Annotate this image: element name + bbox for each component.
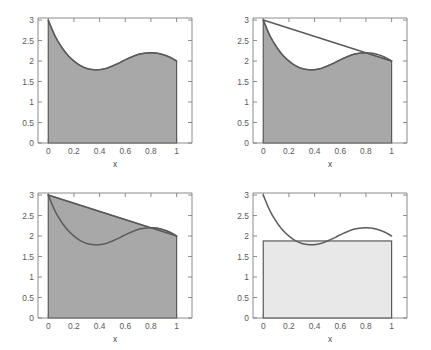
y-tick-label: 2 — [29, 231, 34, 241]
plot-svg-bottom-right: 00.20.40.60.8100.511.522.53x — [215, 175, 430, 350]
x-tick-label: 0.6 — [119, 146, 131, 156]
plot-svg-top-right: 00.20.40.60.8100.511.522.53x — [215, 0, 430, 175]
y-tick-label: 1 — [29, 272, 34, 282]
y-tick-label: 0 — [29, 138, 34, 148]
y-tick-label: 3 — [29, 190, 34, 200]
x-tick-label: 1 — [174, 321, 179, 331]
x-tick-label: 0.2 — [283, 146, 295, 156]
y-tick-label: 0 — [244, 138, 249, 148]
plot-svg-bottom-left: 00.20.40.60.8100.511.522.53x — [0, 175, 215, 350]
figure-canvas: 00.20.40.60.8100.511.522.53x00.20.40.60.… — [0, 0, 431, 350]
y-tick-label: 0.5 — [237, 118, 249, 128]
x-axis-title: x — [328, 334, 333, 344]
shaded-region-upper-envelope — [48, 195, 176, 318]
x-tick-label: 1 — [174, 146, 179, 156]
y-tick-label: 2 — [244, 231, 249, 241]
x-tick-label: 0.2 — [68, 321, 80, 331]
y-tick-label: 2.5 — [22, 211, 34, 221]
y-tick-label: 1.5 — [237, 77, 249, 87]
y-tick-label: 3 — [29, 15, 34, 25]
x-tick-label: 0.8 — [360, 321, 372, 331]
x-tick-label: 0.2 — [68, 146, 80, 156]
y-tick-label: 1.5 — [22, 252, 34, 262]
shaded-region-constant-level — [263, 241, 391, 318]
y-tick-label: 1.5 — [237, 252, 249, 262]
x-tick-label: 0 — [46, 146, 51, 156]
x-axis-title: x — [328, 159, 333, 169]
shaded-region-lower-envelope — [263, 20, 391, 143]
y-tick-label: 3 — [244, 190, 249, 200]
x-tick-label: 0.6 — [119, 321, 131, 331]
x-tick-label: 0.6 — [334, 321, 346, 331]
y-tick-label: 2 — [244, 56, 249, 66]
y-tick-label: 0 — [29, 313, 34, 323]
y-tick-label: 2.5 — [237, 36, 249, 46]
x-tick-label: 0.8 — [145, 321, 157, 331]
y-tick-label: 2.5 — [22, 36, 34, 46]
x-tick-label: 0.8 — [360, 146, 372, 156]
shaded-region-under-curve — [48, 20, 176, 143]
plot-panel-bottom-right: 00.20.40.60.8100.511.522.53x — [215, 175, 430, 350]
y-tick-label: 1 — [244, 272, 249, 282]
x-tick-label: 0.6 — [334, 146, 346, 156]
plot-panel-bottom-left: 00.20.40.60.8100.511.522.53x — [0, 175, 215, 350]
y-tick-label: 2.5 — [237, 211, 249, 221]
x-tick-label: 1 — [389, 146, 394, 156]
x-tick-label: 0.4 — [309, 321, 321, 331]
y-tick-label: 3 — [244, 15, 249, 25]
plot-svg-top-left: 00.20.40.60.8100.511.522.53x — [0, 0, 215, 175]
y-tick-label: 1.5 — [22, 77, 34, 87]
x-tick-label: 0 — [261, 321, 266, 331]
x-tick-label: 0.4 — [94, 146, 106, 156]
y-tick-label: 0.5 — [22, 118, 34, 128]
plot-panel-top-left: 00.20.40.60.8100.511.522.53x — [0, 0, 215, 175]
x-axis-title: x — [113, 334, 118, 344]
y-tick-label: 0 — [244, 313, 249, 323]
plot-panel-top-right: 00.20.40.60.8100.511.522.53x — [215, 0, 430, 175]
x-tick-label: 1 — [389, 321, 394, 331]
x-tick-label: 0.8 — [145, 146, 157, 156]
x-tick-label: 0.2 — [283, 321, 295, 331]
y-tick-label: 1 — [244, 97, 249, 107]
y-tick-label: 0.5 — [22, 293, 34, 303]
y-tick-label: 1 — [29, 97, 34, 107]
curve-line — [263, 195, 391, 245]
x-axis-title: x — [113, 159, 118, 169]
x-tick-label: 0 — [46, 321, 51, 331]
y-tick-label: 0.5 — [237, 293, 249, 303]
y-tick-label: 2 — [29, 56, 34, 66]
x-tick-label: 0.4 — [94, 321, 106, 331]
x-tick-label: 0.4 — [309, 146, 321, 156]
x-tick-label: 0 — [261, 146, 266, 156]
